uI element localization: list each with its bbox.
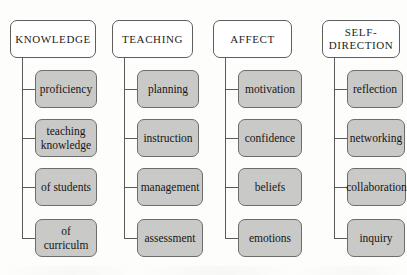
branch-trunk xyxy=(22,70,23,238)
leaf-node: collaboration xyxy=(347,168,406,206)
branch-stub xyxy=(22,89,35,90)
leaf-node: teaching knowledge xyxy=(35,119,97,157)
root-connector-drop xyxy=(22,58,23,70)
branch-stub xyxy=(225,238,238,239)
leaf-node: instruction xyxy=(137,119,199,157)
branch-stub xyxy=(334,238,347,239)
branch-trunk xyxy=(124,70,125,238)
branch-stub xyxy=(334,89,347,90)
leaf-node-label: proficiency xyxy=(40,82,92,96)
leaf-node: reflection xyxy=(347,70,403,108)
root-connector-drop xyxy=(334,58,335,70)
leaf-node-label: of curriculm xyxy=(39,224,93,252)
leaf-node-label: teaching knowledge xyxy=(41,124,91,152)
leaf-node: inquiry xyxy=(347,219,405,257)
leaf-node: management xyxy=(137,168,203,206)
leaf-node: networking xyxy=(347,119,405,157)
branch-stub xyxy=(225,138,238,139)
branch-stub xyxy=(124,138,137,139)
root-node-label: SELF- DIRECTION xyxy=(329,26,394,52)
leaf-node: proficiency xyxy=(35,70,97,108)
branch-stub xyxy=(225,89,238,90)
leaf-node-label: networking xyxy=(350,131,402,145)
branch-stub xyxy=(124,187,137,188)
branch-stub xyxy=(334,138,347,139)
root-node-self-direction: SELF- DIRECTION xyxy=(322,20,400,58)
branch-stub xyxy=(124,89,137,90)
leaf-node-label: collaboration xyxy=(346,180,407,194)
branch-stub xyxy=(124,238,137,239)
leaf-node: confidence xyxy=(238,119,302,157)
root-node-knowledge: KNOWLEDGE xyxy=(10,20,96,58)
leaf-node: assessment xyxy=(137,219,203,257)
root-node-label: AFFECT xyxy=(230,33,275,46)
leaf-node-label: management xyxy=(141,180,200,194)
branch-trunk xyxy=(225,70,226,238)
leaf-node: of curriculm xyxy=(35,219,97,257)
leaf-node-label: of students xyxy=(41,180,91,194)
leaf-node: motivation xyxy=(238,70,302,108)
root-node-affect: AFFECT xyxy=(213,20,292,58)
leaf-node-label: planning xyxy=(148,82,188,96)
leaf-node-label: motivation xyxy=(245,82,295,96)
leaf-node-label: confidence xyxy=(245,131,295,145)
branch-stub xyxy=(334,187,347,188)
root-node-label: KNOWLEDGE xyxy=(15,33,91,46)
leaf-node-label: beliefs xyxy=(255,180,286,194)
branch-stub xyxy=(22,187,35,188)
leaf-node: beliefs xyxy=(238,168,302,206)
branch-trunk xyxy=(334,70,335,238)
leaf-node: planning xyxy=(137,70,199,108)
branch-stub xyxy=(22,238,35,239)
leaf-node: emotions xyxy=(238,219,302,257)
leaf-node-label: inquiry xyxy=(359,231,392,245)
leaf-node-label: instruction xyxy=(143,131,192,145)
root-connector-drop xyxy=(225,58,226,70)
branch-stub xyxy=(225,187,238,188)
root-connector-drop xyxy=(124,58,125,70)
scan-artifact xyxy=(0,266,406,275)
leaf-node-label: assessment xyxy=(144,231,195,245)
leaf-node: of students xyxy=(35,168,97,206)
root-node-label: TEACHING xyxy=(122,33,183,46)
leaf-node-label: reflection xyxy=(353,82,397,96)
leaf-node-label: emotions xyxy=(249,231,291,245)
root-node-teaching: TEACHING xyxy=(112,20,193,58)
branch-stub xyxy=(22,138,35,139)
